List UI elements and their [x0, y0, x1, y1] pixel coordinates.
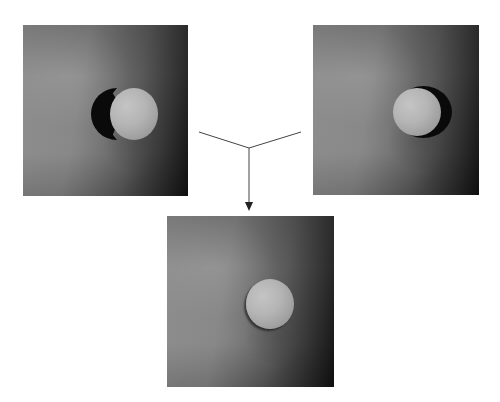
connector-left: [199, 132, 249, 148]
merge-arrow: [0, 0, 500, 402]
connector-right: [249, 132, 301, 148]
arrowhead-icon: [245, 202, 253, 211]
